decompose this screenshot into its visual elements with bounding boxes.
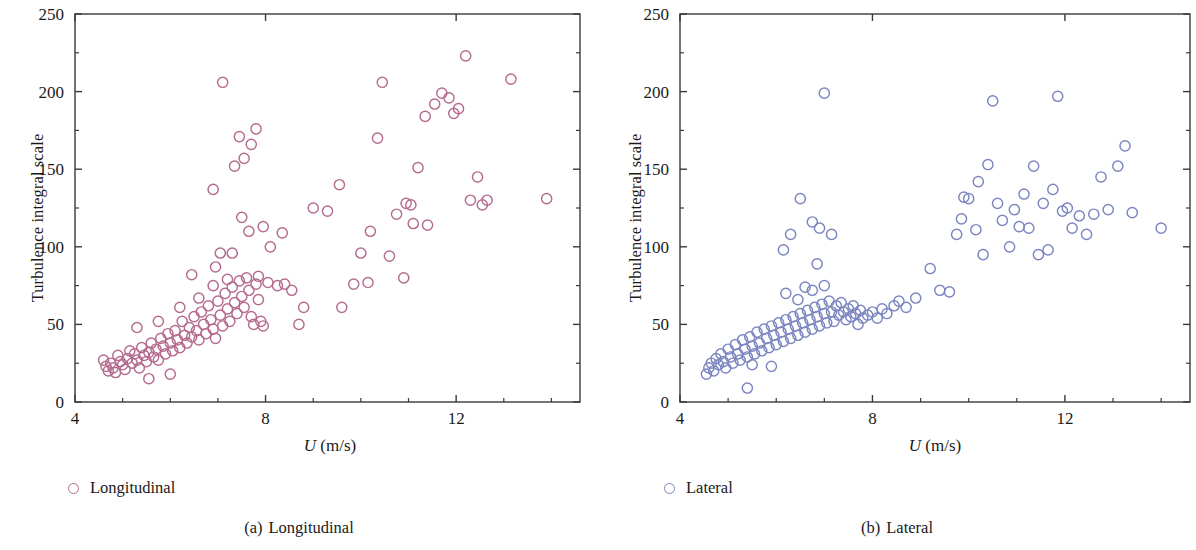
- data-point: [372, 133, 382, 143]
- data-point: [308, 203, 318, 213]
- data-point: [272, 281, 282, 291]
- data-point: [201, 329, 211, 339]
- data-point: [944, 287, 954, 297]
- data-point: [1048, 184, 1058, 194]
- scatter-plot-lateral: 4812050100150200250: [598, 0, 1196, 430]
- data-point: [1009, 204, 1019, 214]
- data-point: [1113, 161, 1123, 171]
- data-point: [461, 51, 471, 61]
- data-point: [973, 177, 983, 187]
- data-point: [778, 245, 788, 255]
- data-point: [1103, 204, 1113, 214]
- x-tick-label: 12: [448, 409, 465, 428]
- data-point: [1019, 189, 1029, 199]
- legend-b: Lateral: [664, 478, 733, 498]
- legend-label-b: Lateral: [686, 478, 733, 498]
- data-point: [430, 99, 440, 109]
- data-point: [1014, 222, 1024, 232]
- y-axis-label-a: Turbulence integral scale: [28, 88, 48, 348]
- data-point: [299, 302, 309, 312]
- data-point: [971, 225, 981, 235]
- data-point: [812, 259, 822, 269]
- data-point-group: [701, 88, 1166, 393]
- data-point: [988, 96, 998, 106]
- y-tick-label: 200: [644, 83, 670, 102]
- data-point: [795, 194, 805, 204]
- caption-b: (b)Lateral: [598, 518, 1196, 538]
- data-point: [793, 294, 803, 304]
- y-tick-label: 100: [644, 238, 670, 257]
- data-point: [189, 312, 199, 322]
- figure-container: 4812050100150200250 Turbulence integral …: [0, 0, 1196, 550]
- data-point: [208, 281, 218, 291]
- data-point: [377, 77, 387, 87]
- data-point: [506, 74, 516, 84]
- caption-text-b: Lateral: [886, 518, 933, 537]
- data-point: [234, 132, 244, 142]
- data-point: [781, 288, 791, 298]
- y-tick-label: 250: [39, 5, 65, 24]
- data-point-group: [98, 51, 551, 384]
- data-point: [263, 277, 273, 287]
- data-point: [203, 301, 213, 311]
- data-point: [237, 212, 247, 222]
- caption-tag-a: (a): [244, 518, 262, 537]
- data-point: [294, 319, 304, 329]
- data-point: [239, 302, 249, 312]
- data-point: [1074, 211, 1084, 221]
- data-point: [113, 350, 123, 360]
- data-point: [132, 322, 142, 332]
- data-point: [444, 93, 454, 103]
- x-tick-label: 4: [676, 409, 685, 428]
- data-point: [952, 229, 962, 239]
- data-point: [210, 333, 220, 343]
- data-point: [187, 270, 197, 280]
- data-point: [1067, 223, 1077, 233]
- data-point: [911, 293, 921, 303]
- data-point: [287, 285, 297, 295]
- data-point: [992, 198, 1002, 208]
- data-point: [1089, 209, 1099, 219]
- data-point: [901, 302, 911, 312]
- x-tick-label: 4: [71, 409, 80, 428]
- x-axis-units-a: (m/s): [316, 436, 356, 455]
- data-point: [1038, 198, 1048, 208]
- x-tick-label: 8: [261, 409, 270, 428]
- y-axis-label-b: Turbulence integral scale: [626, 88, 646, 348]
- data-point: [1156, 223, 1166, 233]
- data-point: [935, 285, 945, 295]
- data-point: [408, 218, 418, 228]
- y-tick-label: 0: [56, 393, 65, 412]
- data-point: [437, 88, 447, 98]
- data-point: [227, 248, 237, 258]
- data-point: [363, 277, 373, 287]
- data-point: [420, 111, 430, 121]
- data-point: [218, 321, 228, 331]
- data-point: [206, 315, 216, 325]
- data-point: [465, 195, 475, 205]
- caption-tag-b: (b): [861, 518, 880, 537]
- y-tick-label: 50: [47, 315, 64, 334]
- data-point: [1053, 91, 1063, 101]
- y-tick-label: 150: [644, 160, 670, 179]
- panel-b-lateral: 4812050100150200250 Turbulence integral …: [598, 0, 1196, 550]
- data-point: [391, 209, 401, 219]
- x-axis-units-b: (m/s): [921, 436, 961, 455]
- data-point: [218, 77, 228, 87]
- data-point: [742, 383, 752, 393]
- data-point: [199, 319, 209, 329]
- data-point: [997, 215, 1007, 225]
- data-point: [253, 294, 263, 304]
- data-point: [786, 229, 796, 239]
- data-point: [730, 339, 740, 349]
- data-point: [1081, 229, 1091, 239]
- x-axis-variable-b: U: [909, 436, 921, 455]
- plot-frame: [75, 14, 580, 402]
- x-axis-label-a: U (m/s): [75, 436, 585, 456]
- data-point: [244, 226, 254, 236]
- data-point: [1096, 172, 1106, 182]
- data-point: [978, 249, 988, 259]
- data-point: [153, 316, 163, 326]
- data-point: [251, 124, 261, 134]
- data-point: [925, 263, 935, 273]
